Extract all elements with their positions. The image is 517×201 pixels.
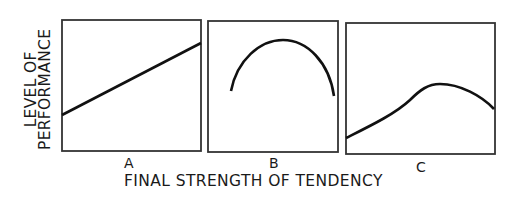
panel-c [346,23,495,154]
panel-c-label: C [416,159,426,175]
x-axis-label: FINAL STRENGTH OF TENDENCY [124,172,383,190]
panel-a-label: A [124,155,134,171]
figure-canvas [0,0,517,201]
panel-b-curve [231,40,334,96]
y-axis-label-line2: PERFORMANCE [38,29,52,150]
panel-a-frame [62,20,201,151]
panel-b [208,21,338,152]
panel-a-curve [62,43,201,115]
panel-c-frame [346,23,495,154]
panel-a [62,20,201,151]
panel-b-label: B [269,155,279,171]
y-axis-label: LEVEL OF PERFORMANCE [24,29,52,150]
panel-c-curve [346,84,494,138]
